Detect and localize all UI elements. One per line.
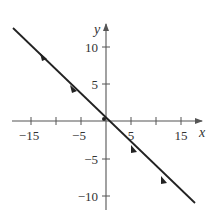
data-line — [13, 28, 195, 203]
chart-container: −15 −5 5 15 10 5 −5 −10 x y — [0, 0, 213, 214]
y-tick-label: 5 — [92, 77, 99, 92]
y-tick-label: 10 — [85, 40, 98, 55]
arrow-marker-icon — [161, 176, 167, 184]
x-tick-label: 15 — [175, 128, 188, 143]
y-tick-label: −5 — [84, 152, 98, 167]
x-axis-label: x — [198, 125, 206, 140]
x-tick-label: −15 — [19, 128, 39, 143]
x-tick-label: −5 — [72, 128, 86, 143]
y-axis-label: y — [92, 22, 101, 37]
y-tick-label: −10 — [78, 189, 98, 204]
origin-point — [102, 117, 106, 121]
line-chart: −15 −5 5 15 10 5 −5 −10 x y — [0, 0, 213, 214]
